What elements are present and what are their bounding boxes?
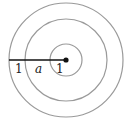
concentric-circles-diagram: 1 a 1	[0, 0, 129, 123]
label-outer-gap: 1	[15, 62, 23, 76]
label-inner-radius: 1	[56, 62, 64, 76]
label-a: a	[35, 62, 42, 76]
center-dot	[63, 57, 68, 62]
